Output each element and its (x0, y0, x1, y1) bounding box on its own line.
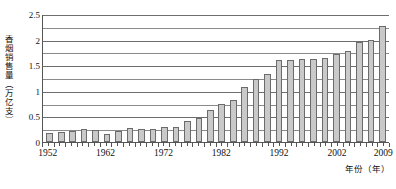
bar-slot (55, 15, 66, 142)
bar (287, 60, 294, 142)
bar (161, 127, 168, 142)
bar (184, 121, 191, 142)
y-axis-tick-label: 1 (18, 87, 40, 96)
bar-series (43, 15, 389, 142)
x-axis-minor-tick (117, 143, 118, 146)
x-axis-tick (77, 143, 78, 147)
x-axis-tick (262, 143, 263, 147)
x-axis-minor-tick (210, 143, 211, 146)
x-axis-tick (239, 143, 240, 147)
bar (58, 132, 65, 142)
bar (356, 42, 363, 142)
bar (81, 129, 88, 142)
x-axis-minor-tick (221, 143, 222, 146)
cigarette-sales-bar-chart: 香烟销售量（万亿支） 00.511.522.5 1952196219721982… (0, 0, 396, 189)
x-axis-tick (192, 143, 193, 147)
x-axis-tick (181, 143, 182, 147)
x-axis-minor-tick (372, 143, 373, 146)
x-axis-tick (227, 143, 228, 147)
x-axis-title: 年份（年） (345, 162, 390, 174)
x-axis-tick (216, 143, 217, 147)
bar-slot (273, 15, 284, 142)
y-axis-title: 香烟销售量（万亿支） (1, 14, 15, 146)
bar-slot (147, 15, 158, 142)
x-axis-tick-label: 2002 (327, 148, 346, 158)
bar-slot (136, 15, 147, 142)
x-axis-minor-tick (129, 143, 130, 146)
x-axis-tick-labels: 1952196219721982199220022009 (0, 148, 396, 162)
x-axis-minor-tick (71, 143, 72, 146)
x-axis-minor-tick (349, 143, 350, 146)
bar-slot (285, 15, 296, 142)
bar-slot (331, 15, 342, 142)
bar-slot (205, 15, 216, 142)
bar (69, 131, 76, 142)
bar-slot (78, 15, 89, 142)
bar-slot (113, 15, 124, 142)
x-axis-tick (65, 143, 66, 147)
bar (196, 118, 203, 142)
bar (310, 59, 317, 142)
x-axis-tick (123, 143, 124, 147)
y-axis-tick-label: 1.5 (18, 62, 40, 71)
bar-slot (239, 15, 250, 142)
x-axis-minor-tick (360, 143, 361, 146)
x-axis-tick (389, 143, 390, 147)
x-axis-minor-tick (244, 143, 245, 146)
x-axis-tick (100, 143, 101, 147)
bar-slot (170, 15, 181, 142)
x-axis-tick-label: 1952 (38, 148, 57, 158)
bar-slot (159, 15, 170, 142)
x-axis-minor-tick (140, 143, 141, 146)
x-axis-minor-tick (175, 143, 176, 146)
y-axis-tick-label: 2.5 (18, 11, 40, 20)
x-axis-tick (111, 143, 112, 147)
x-axis-tick (146, 143, 147, 147)
bar (333, 54, 340, 142)
bar (264, 74, 271, 142)
x-axis-tick (54, 143, 55, 147)
x-axis-minor-tick (152, 143, 153, 146)
x-axis-minor-tick (291, 143, 292, 146)
bar (173, 127, 180, 142)
x-axis-minor-tick (337, 143, 338, 146)
x-axis-tick (377, 143, 378, 147)
y-axis-tick-label: 0.5 (18, 113, 40, 122)
bar-slot (228, 15, 239, 142)
x-axis-tick-label: 2009 (374, 148, 393, 158)
bar-slot (365, 15, 376, 142)
y-axis-tick-label: 2 (18, 36, 40, 45)
x-axis-tick (135, 143, 136, 147)
bar (207, 110, 214, 142)
bar-slot (101, 15, 112, 142)
x-axis-tick (331, 143, 332, 147)
x-axis-minor-tick (82, 143, 83, 146)
plot-area (42, 15, 389, 143)
bar (104, 134, 111, 142)
x-axis-minor-tick (233, 143, 234, 146)
x-axis-tick (343, 143, 344, 147)
bar-slot (193, 15, 204, 142)
x-axis-tick (204, 143, 205, 147)
bar-slot (67, 15, 78, 142)
bar-slot (319, 15, 330, 142)
bar-slot (296, 15, 307, 142)
x-axis-tick (285, 143, 286, 147)
x-axis-tick (320, 143, 321, 147)
bar (138, 129, 145, 142)
bar-slot (354, 15, 365, 142)
bar (150, 129, 157, 142)
x-axis-minor-tick (48, 143, 49, 146)
bar-slot (44, 15, 55, 142)
bar-slot (124, 15, 135, 142)
bar-slot (342, 15, 353, 142)
x-axis-tick (354, 143, 355, 147)
x-axis-tick (366, 143, 367, 147)
bar-slot (250, 15, 261, 142)
x-axis-minor-tick (163, 143, 164, 146)
bar (92, 130, 99, 142)
bar (253, 79, 260, 142)
bar-slot (216, 15, 227, 142)
bar (127, 128, 134, 142)
x-axis-tick-label: 1962 (96, 148, 115, 158)
